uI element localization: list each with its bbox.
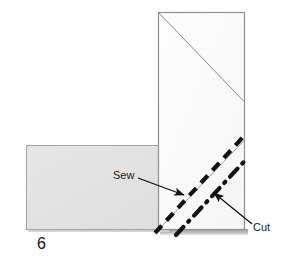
diagram-canvas [0, 0, 286, 263]
step-number-label: 6 [37, 236, 46, 252]
sewing-diagram-figure: Sew Cut 6 [0, 0, 286, 263]
left-fabric-panel [27, 146, 169, 230]
vertical-fabric-panel [159, 13, 245, 230]
cut-label: Cut [253, 222, 270, 233]
sew-label: Sew [113, 170, 134, 181]
